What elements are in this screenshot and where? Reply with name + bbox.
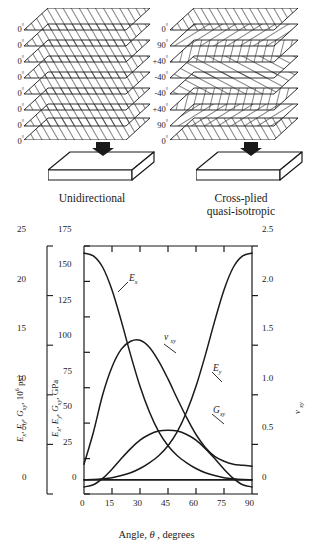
annotation-leaders xyxy=(118,282,224,424)
unidirectional-ply-label-list: 0° 0° 0° 0° 0° 0° 0° 0° xyxy=(2,22,24,254)
gpa-tick-label: 0 xyxy=(72,472,77,482)
psi-tick-label: 10 xyxy=(17,373,26,383)
ply-angle-label: 90° xyxy=(157,118,168,129)
psi-axis-title: Ex, Ey, Gxy, 106 psi xyxy=(14,376,27,442)
crossplied-ply-label-list: 0° 90° +40° -40° -40° +40° 90° 0° xyxy=(140,22,168,254)
gpa-axis-title: Ex, Ey, Gxy, GPa xyxy=(50,380,62,437)
poisson-tick-label: 0.5 xyxy=(262,422,273,432)
plate-front-face xyxy=(196,170,280,180)
poisson-axis-spine xyxy=(252,246,258,494)
gpa-tick-label: 25 xyxy=(63,437,72,447)
curve-label-ey: Ey xyxy=(213,363,221,375)
x-tick-label: 75 xyxy=(217,498,226,508)
ply-angle-label: 90° xyxy=(157,38,168,49)
poisson-tick-label: 1.0 xyxy=(262,373,273,383)
x-tick-label: 15 xyxy=(105,498,114,508)
unidirectional-caption: Unidirectional xyxy=(22,192,162,205)
x-axis-title: Angle, θ , degrees xyxy=(0,529,313,540)
top-spine xyxy=(84,246,252,252)
ply-angle-label: -40° xyxy=(154,70,168,81)
psi-tick-label: 5 xyxy=(22,422,27,432)
curve-Ey xyxy=(84,253,252,480)
figure-root: 0° 0° 0° 0° 0° 0° 0° 0° xyxy=(0,0,313,552)
crossplied-plate xyxy=(196,142,306,188)
property-chart: Ex, Ey, Gxy, 106 psi Ex, Ey, Gxy, GPa ν … xyxy=(0,232,313,552)
caption-line2: quasi-isotropic xyxy=(207,205,275,217)
curve-label-ex: Ex xyxy=(129,273,137,285)
ply-angle-label: +40° xyxy=(153,54,169,65)
x-tick-label: 60 xyxy=(189,498,198,508)
curve-group xyxy=(84,253,252,487)
ply-angle-label: +40° xyxy=(153,102,169,113)
x-tick-label: 90 xyxy=(245,498,254,508)
curve-label-gxy: Gxy xyxy=(213,405,225,417)
plate-front-face xyxy=(48,170,132,180)
curve-label-nuxy: ν xy xyxy=(164,332,176,344)
caption-text: Unidirectional xyxy=(59,192,125,204)
unidirectional-plate xyxy=(48,142,158,188)
psi-tick-label: 15 xyxy=(17,323,26,333)
psi-tick-label: 0 xyxy=(22,472,27,482)
poisson-tick-label: 2.0 xyxy=(262,274,273,284)
x-tick-label: 30 xyxy=(133,498,142,508)
x-tick-label: 0 xyxy=(80,498,85,508)
x-axis-spine xyxy=(84,488,252,494)
laminate-diagram: 0° 0° 0° 0° 0° 0° 0° 0° xyxy=(0,0,313,232)
gpa-tick-label: 100 xyxy=(58,330,72,340)
gpa-tick-label: 175 xyxy=(58,224,72,234)
ply-angle-label: -40° xyxy=(154,86,168,97)
psi-tick-label: 25 xyxy=(17,224,26,234)
x-tick-label: 45 xyxy=(161,498,170,508)
curve-nu_xy xyxy=(84,340,252,466)
gpa-tick-label: 125 xyxy=(58,295,72,305)
poisson-tick-label: 0 xyxy=(262,472,267,482)
gpa-tick-label: 50 xyxy=(63,401,72,411)
psi-axis-spine xyxy=(47,246,53,494)
psi-tick-label: 20 xyxy=(17,274,26,284)
crossplied-ply-stack xyxy=(168,8,300,140)
poisson-tick-label: 1.5 xyxy=(262,323,273,333)
poisson-axis-title: ν xy xyxy=(292,402,304,414)
caption-line1: Cross-plied xyxy=(214,192,267,204)
gpa-tick-label: 150 xyxy=(58,259,72,269)
unidirectional-ply-stack xyxy=(22,8,152,140)
poisson-tick-label: 2.5 xyxy=(262,224,273,234)
gpa-tick-label: 75 xyxy=(63,366,72,376)
crossplied-caption: Cross-plied quasi-isotropic xyxy=(176,192,306,218)
